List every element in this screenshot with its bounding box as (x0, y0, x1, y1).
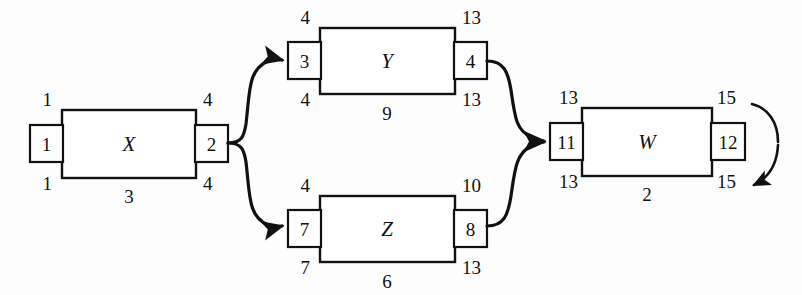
node-W-early-finish: 15 (717, 87, 736, 108)
node-Z-late-start: 7 (301, 257, 311, 278)
node-Y-late-start: 4 (301, 89, 311, 110)
node-Z-duration: 6 (382, 271, 392, 292)
edge-X-to-Z (228, 143, 282, 227)
node-W-late-finish: 15 (717, 171, 736, 192)
edge-Z-to-W (487, 142, 544, 226)
node-X-duration: 3 (124, 186, 134, 207)
node-X-late-finish: 4 (203, 173, 213, 194)
edge-X-to-Y (228, 59, 282, 143)
node-Z-early-start: 4 (301, 175, 311, 196)
curved-arrow-icon (752, 104, 778, 142)
node-X-early-finish: 4 (203, 89, 213, 110)
node-W-duration: 2 (642, 184, 652, 205)
finish-loop-arrow (752, 104, 778, 185)
node-Z-left-tab-value: 7 (300, 219, 310, 240)
node-Y-right-tab-value: 4 (466, 51, 476, 72)
node-Y-early-finish: 13 (462, 7, 481, 28)
node-Y-early-start: 4 (301, 7, 311, 28)
node-W-right-tab-value: 12 (719, 132, 738, 153)
node-Z-right-tab-value: 8 (466, 219, 476, 240)
node-X-right-tab-value: 2 (207, 134, 217, 155)
node-Z-label: Z (381, 217, 393, 241)
node-X-early-start: 1 (43, 89, 53, 110)
node-Y[interactable]: Y 3 4 4 13 4 13 9 (288, 7, 487, 124)
node-W-early-start: 13 (559, 87, 578, 108)
node-Y-late-finish: 13 (462, 89, 481, 110)
network-diagram: X 1 2 1 4 1 4 3 Y 3 4 4 13 4 13 9 Z 7 8 … (0, 0, 802, 295)
node-Y-left-tab-value: 3 (300, 51, 310, 72)
node-Y-duration: 9 (382, 103, 392, 124)
curved-arrow-icon-lower (754, 145, 778, 185)
node-Z-late-finish: 13 (462, 257, 481, 278)
node-Z[interactable]: Z 7 8 4 10 7 13 6 (288, 175, 487, 292)
node-W-late-start: 13 (559, 171, 578, 192)
node-X-left-tab-value: 1 (42, 134, 52, 155)
edge-Y-to-W (487, 61, 544, 141)
node-Z-early-finish: 10 (462, 175, 481, 196)
node-W[interactable]: W 11 12 13 15 13 15 2 (550, 87, 745, 205)
node-W-left-tab-value: 11 (557, 132, 575, 153)
node-W-label: W (638, 130, 658, 154)
node-X-late-start: 1 (43, 173, 53, 194)
node-X[interactable]: X 1 2 1 4 1 4 3 (30, 89, 228, 207)
node-X-label: X (122, 132, 137, 156)
